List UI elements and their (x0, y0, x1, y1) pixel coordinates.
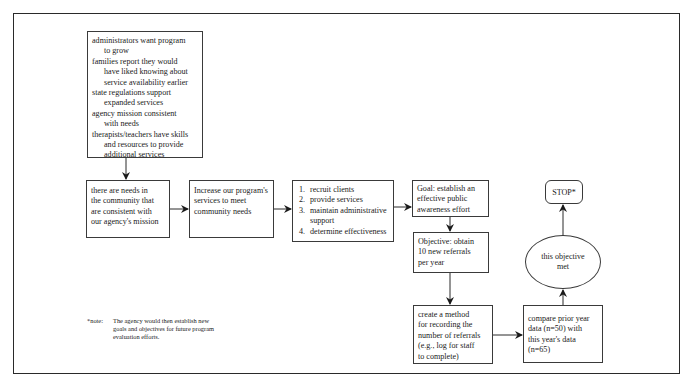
step-text: recruit clients (310, 185, 354, 194)
compare-line: (n=65) (528, 345, 598, 355)
program-steps-list: 1.recruit clients 2.provide services 3.m… (299, 185, 389, 237)
compare-data-box: compare prior year data (n=50) with this… (523, 305, 603, 363)
step-number: 4. (299, 227, 310, 237)
needs-line: our agency's mission (91, 217, 165, 227)
method-line: create a method (418, 310, 488, 320)
step-continuation: support (299, 216, 389, 226)
footnote-label: *note: (87, 317, 103, 325)
needs-box: there are needs in the community that ar… (86, 180, 170, 238)
rationale-line: administrators want program (92, 36, 198, 46)
compare-line: data (n=50) with (528, 324, 598, 334)
compare-line: compare prior year (528, 314, 598, 324)
objective-line: Objective: obtain (418, 237, 484, 247)
footnote-line: goals and objectives for future program (113, 325, 214, 333)
method-line: for recording the (418, 320, 488, 330)
goal-line: Goal: establish an (417, 184, 484, 194)
step-text: maintain administrative (310, 206, 387, 215)
footnote-line: The agency would then establish new (113, 317, 214, 325)
needs-line: there are needs in (91, 186, 165, 196)
rationale-line: therapists/teachers have skills (92, 130, 198, 140)
step-number: 1. (299, 185, 310, 195)
step-item: 2.provide services (299, 195, 389, 205)
rationale-line: service availability earlier (92, 78, 198, 88)
decision-line: met (557, 262, 569, 272)
step-item: 1.recruit clients (299, 185, 389, 195)
goal-box: Goal: establish an effective public awar… (412, 180, 489, 217)
footnote-line: evaluation efforts. (113, 333, 214, 341)
rationale-line: and resources to provide (92, 140, 198, 150)
objective-met-decision: this objective met (525, 235, 601, 289)
method-line: to complete) (418, 352, 488, 362)
recording-method-box: create a method for recording the number… (413, 305, 493, 364)
rationale-line: state regulations support (92, 88, 198, 98)
step-item: 3.maintain administrativesupport (299, 206, 389, 227)
increase-line: Increase our program's (194, 186, 269, 196)
step-number: 3. (299, 206, 310, 216)
rationale-line: to grow (92, 46, 198, 56)
increase-line: services to meet (194, 196, 269, 206)
method-line: (e.g., log for staff (418, 341, 488, 351)
rationale-line: agency mission consistent (92, 109, 198, 119)
step-text: provide services (310, 195, 363, 204)
goal-line: awareness effort (417, 205, 484, 215)
stop-terminal: STOP* (545, 180, 583, 204)
rationale-line: families report they would (92, 57, 198, 67)
rationale-box: administrators want program to grow fami… (87, 31, 203, 158)
footnote-text: The agency would then establish new goal… (113, 317, 214, 342)
decision-line: this objective (541, 252, 584, 262)
objective-line: 10 new referrals (418, 247, 484, 257)
compare-line: this year's data (528, 335, 598, 345)
step-number: 2. (299, 195, 310, 205)
stop-label: STOP* (552, 188, 576, 197)
rationale-line: additional services (92, 150, 198, 160)
objective-box: Objective: obtain 10 new referrals per y… (413, 232, 489, 273)
needs-line: are consistent with (91, 207, 165, 217)
method-line: number of referrals (418, 331, 488, 341)
rationale-line: with needs (92, 119, 198, 129)
rationale-line: expanded services (92, 98, 198, 108)
program-steps-box: 1.recruit clients 2.provide services 3.m… (292, 180, 394, 242)
objective-line: per year (418, 258, 484, 268)
step-text: determine effectiveness (310, 227, 386, 236)
needs-line: the community that (91, 196, 165, 206)
goal-line: effective public (417, 194, 484, 204)
rationale-line: have liked knowing about (92, 67, 198, 77)
step-item: 4.determine effectiveness (299, 227, 389, 237)
increase-line: community needs (194, 207, 269, 217)
increase-services-box: Increase our program's services to meet … (189, 180, 274, 238)
